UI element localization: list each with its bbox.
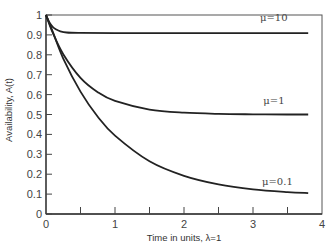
y-tick-label: 0.9 [27,29,42,41]
series-label-0: μ=10 [260,12,288,23]
x-tick-label: 3 [250,218,256,230]
x-axis-title: Time in units, λ=1 [147,232,221,243]
x-tick-label: 2 [181,218,187,230]
y-tick-label: 0.1 [27,188,42,200]
y-tick-label: 0.5 [27,109,42,121]
y-tick-label: 0 [36,208,42,220]
series-label-2: μ=0.1 [262,176,293,187]
availability-chart: 00.10.20.30.40.50.60.70.80.91 01234 μ=10… [0,0,334,252]
y-tick-label: 0.6 [27,89,42,101]
series-labels: μ=10μ=1μ=0.1 [260,12,293,187]
x-tick-label: 4 [319,218,325,230]
y-tick-label: 0.2 [27,168,42,180]
x-tick-label: 0 [43,218,49,230]
x-tick-label: 1 [112,218,118,230]
y-axis-ticks: 00.10.20.30.40.50.60.70.80.91 [27,9,52,220]
y-axis-title: Availability, A(t) [3,78,14,142]
y-tick-label: 0.3 [27,148,42,160]
y-tick-label: 0.8 [27,49,42,61]
x-axis-ticks: 01234 [43,207,325,230]
y-tick-label: 0.4 [27,128,42,140]
series-label-1: μ=1 [263,95,284,106]
y-tick-label: 0.7 [27,69,42,81]
y-tick-label: 1 [36,9,42,21]
